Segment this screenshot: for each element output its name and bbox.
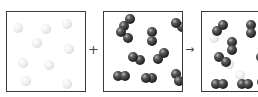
reactant-atoms-panel [6,11,86,92]
dark-atom [257,77,258,87]
dark-atom [171,18,181,28]
dark-atom [141,73,151,83]
dark-atom [128,52,138,62]
white-atom [62,79,72,89]
white-atom [13,23,23,33]
dark-atom [147,27,157,37]
dark-atom [147,36,157,46]
dark-atom [256,52,258,62]
dark-atom [227,45,237,55]
reactant-molecules-panel [103,11,183,92]
white-atom [44,60,54,70]
white-atom [32,38,42,48]
dark-atom [218,79,228,89]
plus-sign: + [88,43,99,56]
dark-atom [246,28,256,38]
dark-atom [120,71,130,81]
product-mixture-illustration [202,12,258,92]
dark-diatomic-molecules-illustration [104,12,183,92]
white-atom [21,76,31,86]
reaction-arrow: → [185,44,194,55]
product-panel [201,11,258,92]
dark-atom [243,79,253,89]
white-atoms-illustration [7,12,86,92]
white-atom [64,44,74,54]
dark-atom [116,27,126,37]
dark-atom [221,57,231,67]
white-atom [62,19,72,29]
dark-atom [153,54,163,64]
white-atom [18,58,28,68]
white-atom [41,24,51,34]
dark-atom [212,26,222,36]
white-atom [235,70,245,80]
